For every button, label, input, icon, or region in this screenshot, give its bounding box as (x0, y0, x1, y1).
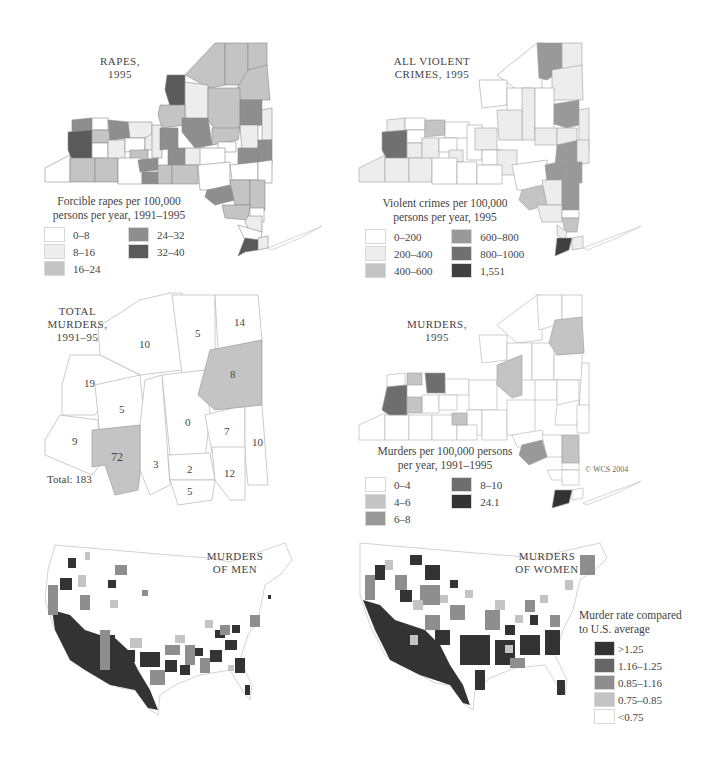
murders-legend-item: 24.1 (451, 494, 525, 509)
county-count-label: 19 (84, 377, 95, 389)
murder-rate-legend-item: 1.16–1.25 (594, 658, 714, 673)
murders-of-men-map-title: MURDERS OF MEN (200, 550, 270, 576)
county-count-label: 9 (72, 435, 78, 447)
rapes-legend-item: 24–32 (128, 227, 194, 242)
violent-legend-item: 200–400 (365, 246, 433, 261)
violent-crimes-map-title: ALL VIOLENT CRIMES, 1995 (387, 55, 477, 81)
total-murders-map-panel: TOTAL MURDERS, 1991–95 10 5 14 19 8 5 0 … (0, 275, 357, 510)
murder-rate-legend-item: <0.75 (594, 709, 714, 724)
legend-swatch (594, 658, 615, 673)
violent-crimes-legend-title: Violent crimes per 100,000 persons per y… (365, 196, 525, 224)
murders-legend-item: 8–10 (451, 477, 525, 492)
rapes-legend: Forcible rapes per 100,000 persons per y… (44, 194, 194, 276)
murders-of-women-map-panel: MURDERS OF WOMEN Murder rate compared to… (357, 540, 714, 764)
legend-swatch (44, 244, 65, 259)
legend-swatch (451, 477, 472, 492)
legend-swatch (365, 494, 386, 509)
legend-swatch (451, 229, 472, 244)
rapes-legend-item: 8–16 (44, 244, 110, 259)
murders-of-women-map-title: MURDERS OF WOMEN (507, 550, 587, 576)
legend-swatch (365, 511, 386, 526)
rapes-legend-item: 16–24 (44, 261, 110, 276)
rapes-legend-item: 32–40 (128, 244, 194, 259)
legend-swatch (128, 244, 149, 259)
rapes-map-panel: RAPES, 1995 Forcible rapes per 100,000 p… (0, 0, 357, 275)
total-murders-map-title: TOTAL MURDERS, 1991–95 (40, 305, 115, 344)
legend-swatch (451, 494, 472, 509)
murders-legend-title: Murders per 100,000 persons per year, 19… (365, 444, 525, 472)
violent-crimes-map-panel: ALL VIOLENT CRIMES, 1995 Violent crimes … (357, 0, 714, 275)
county-count-label: 10 (139, 338, 150, 350)
county-count-label: 7 (224, 425, 230, 437)
violent-legend-item: 800–1000 (451, 246, 525, 261)
murders-legend-item: 0–4 (365, 477, 433, 492)
county-count-label: 12 (224, 467, 235, 479)
copyright-note: © WCS 2004 (585, 465, 628, 474)
murder-rate-legend-title: Murder rate compared to U.S. average (577, 608, 714, 636)
murders-legend-item: 6–8 (365, 511, 433, 526)
rapes-legend-item: 0–8 (44, 227, 110, 242)
legend-swatch (594, 709, 615, 724)
violent-legend-item: 600–800 (451, 229, 525, 244)
county-count-label: 14 (234, 316, 245, 328)
murders-legend-item: 4–6 (365, 494, 433, 509)
murders-of-men-map-panel: MURDERS OF MEN (0, 540, 357, 764)
rapes-legend-title: Forcible rapes per 100,000 persons per y… (44, 194, 194, 222)
county-count-label: 0 (185, 416, 191, 428)
legend-swatch (44, 227, 65, 242)
legend-swatch (365, 246, 386, 261)
county-count-label: 5 (195, 327, 201, 339)
murder-rate-legend: Murder rate compared to U.S. average >1.… (577, 608, 714, 724)
legend-swatch (594, 641, 615, 656)
murders-map-panel: MURDERS, 1995 © WCS 2004 Murders per 100… (357, 275, 714, 510)
legend-swatch (594, 692, 615, 707)
murder-rate-legend-item: 0.85–1.16 (594, 675, 714, 690)
murder-rate-legend-item: >1.25 (594, 641, 714, 656)
county-count-label: 8 (230, 368, 236, 380)
county-count-label: 72 (111, 450, 123, 465)
us-murders-of-men-map (0, 540, 357, 764)
violent-legend-item: 0–200 (365, 229, 433, 244)
legend-swatch (594, 675, 615, 690)
county-count-label: 5 (187, 485, 193, 497)
rapes-map-title: RAPES, 1995 (70, 55, 170, 81)
murder-rate-legend-item: 0.75–0.85 (594, 692, 714, 707)
total-murders-label: Total: 183 (47, 473, 92, 485)
murders-map-title: MURDERS, 1995 (397, 318, 477, 344)
county-count-label: 5 (119, 403, 125, 415)
legend-swatch (44, 261, 65, 276)
county-count-label: 10 (252, 436, 263, 448)
murders-legend: Murders per 100,000 persons per year, 19… (365, 444, 525, 526)
legend-swatch (451, 246, 472, 261)
legend-swatch (365, 477, 386, 492)
legend-swatch (128, 227, 149, 242)
county-count-label: 2 (187, 463, 193, 475)
violent-crimes-legend: Violent crimes per 100,000 persons per y… (365, 196, 525, 278)
legend-swatch (365, 229, 386, 244)
county-count-label: 3 (153, 458, 159, 470)
